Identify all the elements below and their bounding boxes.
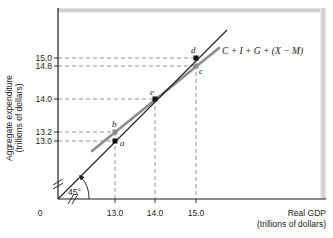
data-points <box>113 56 199 144</box>
svg-text:Real GDP: Real GDP <box>288 208 327 218</box>
svg-text:14.0: 14.0 <box>147 208 164 218</box>
ae-curve-label: C + I + G + (X − M) <box>222 46 303 57</box>
origin-label: 0 <box>38 208 43 218</box>
y-axis-label: Aggregate expenditure (trillions of doll… <box>4 75 24 161</box>
forty-five-degree-line <box>58 30 227 199</box>
angle-arc-icon <box>81 177 89 199</box>
point-c <box>194 64 199 69</box>
svg-text:14.8: 14.8 <box>35 61 52 71</box>
point-a <box>113 139 118 144</box>
x-axis-label: Real GDP (trillions of dollars) <box>257 208 326 229</box>
svg-text:13.0: 13.0 <box>35 136 52 146</box>
svg-text:15.0: 15.0 <box>188 208 205 218</box>
plot-panel-frame <box>58 8 326 199</box>
point-label-e: e <box>150 87 154 97</box>
x-tick-labels: 13.0 14.0 15.0 <box>107 208 205 218</box>
svg-text:Aggregate expenditure: Aggregate expenditure <box>4 75 14 161</box>
svg-text:(trillions of dollars): (trillions of dollars) <box>257 219 326 229</box>
point-label-c: c <box>199 66 203 76</box>
point-label-d: d <box>191 45 196 55</box>
point-label-a: a <box>120 138 125 148</box>
svg-text:14.0: 14.0 <box>35 94 52 104</box>
axes <box>58 8 326 199</box>
point-b <box>113 130 118 135</box>
y-tick-labels: 15.0 14.8 14.0 13.2 13.0 <box>35 53 52 146</box>
svg-text:13.0: 13.0 <box>107 208 124 218</box>
point-d <box>194 56 199 61</box>
point-label-b: b <box>112 119 117 129</box>
point-e <box>153 97 158 102</box>
angle-label: 45° <box>68 187 81 197</box>
chart: 45° 15.0 14.8 14.0 13.2 13.0 13.0 14.0 1… <box>0 0 333 238</box>
svg-text:(trillions of dollars): (trillions of dollars) <box>14 83 24 152</box>
